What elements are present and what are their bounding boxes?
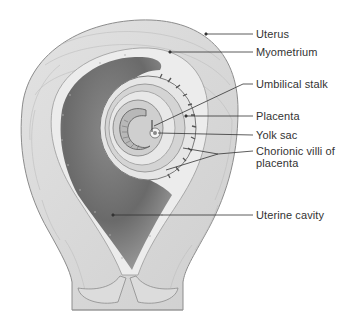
label-uterus: Uterus [256, 28, 289, 40]
label-yolk-sac: Yolk sac [256, 129, 297, 141]
label-placenta: Placenta [256, 110, 300, 122]
label-myometrium: Myometrium [256, 46, 318, 58]
label-chorionic-villi: Chorionic villi of placenta [256, 145, 338, 169]
label-uterine-cavity: Uterine cavity [256, 209, 324, 221]
label-umbilical-stalk: Umbilical stalk [256, 78, 328, 90]
